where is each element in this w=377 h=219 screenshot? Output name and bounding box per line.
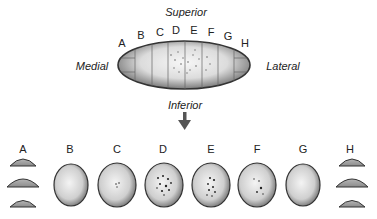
- slice-d: [145, 163, 183, 207]
- bottom-label-c: C: [113, 143, 121, 155]
- bottom-label-a: A: [19, 143, 26, 155]
- slice-a-caps: [7, 159, 39, 207]
- bottom-label-f: F: [254, 143, 261, 155]
- slice-c: [98, 163, 136, 207]
- diagram-graphics: [0, 0, 377, 219]
- slice-h-caps: [336, 159, 368, 207]
- down-arrow-icon: [178, 112, 191, 130]
- bottom-label-g: G: [299, 143, 308, 155]
- bottom-label-d: D: [159, 143, 167, 155]
- slice-e: [192, 163, 230, 207]
- bottom-label-h: H: [346, 143, 354, 155]
- bottom-label-e: E: [207, 143, 214, 155]
- whole-organ-oval: [118, 40, 250, 90]
- slice-g: [286, 164, 320, 206]
- slice-b: [54, 164, 88, 206]
- bottom-label-b: B: [66, 143, 73, 155]
- slice-f: [238, 163, 276, 207]
